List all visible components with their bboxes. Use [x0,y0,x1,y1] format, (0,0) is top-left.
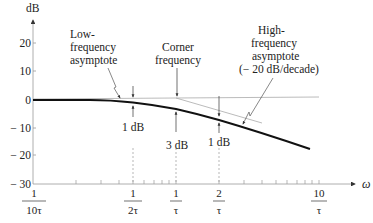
svg-text:1: 1 [173,187,179,199]
corner-frequency-annotation: Corner frequency [155,41,201,96]
y-axis: dB 20 10 0 − 10 − 20 − 30 [10,2,40,190]
error-label-double: 1 dB [208,136,230,148]
svg-text:10: 10 [314,187,326,199]
y-tick-minus20: − 20 [10,149,31,161]
svg-text:2τ: 2τ [128,204,139,216]
svg-text:10τ: 10τ [26,204,42,216]
y-tick-minus30: − 30 [10,178,31,190]
svg-text:asymptote: asymptote [70,54,117,67]
bode-diagram: dB 20 10 0 − 10 − 20 − 30 ω [0,0,373,223]
reference-dashes [133,148,219,184]
svg-text:frequency: frequency [251,37,297,50]
x-axis-label: ω [362,177,370,191]
svg-text:(− 20 dB/decade): (− 20 dB/decade) [239,63,319,76]
x-tick-0: 1 10τ [22,187,46,216]
error-label-half: 1 dB [122,121,144,133]
x-tick-3: 2 τ [213,187,225,216]
x-axis: ω 1 10τ 1 [22,177,370,216]
y-tick-10: 10 [20,65,32,77]
x-tick-4: 10 τ [311,187,327,216]
svg-text:τ: τ [174,204,179,216]
high-frequency-annotation: High- frequency asymptote (− 20 dB/decad… [239,24,319,124]
error-label-corner: 3 dB [166,139,188,151]
svg-text:frequency: frequency [155,54,201,67]
svg-text:frequency: frequency [70,41,116,54]
x-tick-2: 1 τ [170,187,182,216]
svg-text:2: 2 [216,187,222,199]
svg-text:Low-: Low- [70,28,95,40]
low-frequency-annotation: Low- frequency asymptote [70,28,120,98]
svg-text:1: 1 [31,187,37,199]
svg-text:1: 1 [130,187,136,199]
svg-text:Corner: Corner [162,41,194,53]
y-axis-label: dB [26,2,40,14]
svg-text:asymptote: asymptote [252,50,299,63]
y-tick-20: 20 [20,37,32,49]
x-tick-1: 1 2τ [124,187,142,216]
svg-text:τ: τ [217,204,222,216]
svg-text:High-: High- [258,24,285,37]
y-tick-0: 0 [25,94,31,106]
y-tick-minus10: − 10 [10,122,31,134]
svg-text:τ: τ [317,204,322,216]
